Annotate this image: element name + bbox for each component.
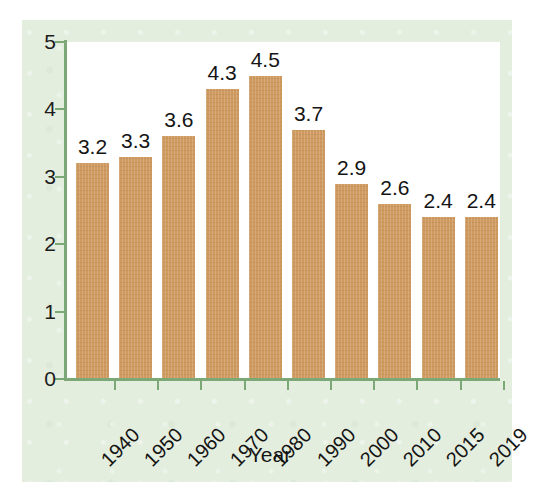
x-tick-1970 <box>244 381 246 390</box>
bar-1940 <box>76 163 109 379</box>
bar-1980 <box>249 76 282 379</box>
bar-1960 <box>162 136 195 379</box>
y-tick-label-3: 3 <box>30 165 56 189</box>
bar-value-label-1990: 3.7 <box>281 102 337 126</box>
x-tick-1990 <box>330 381 332 390</box>
y-tick-0 <box>55 378 65 380</box>
bar-2000 <box>335 184 368 379</box>
y-tick-5 <box>55 41 65 43</box>
y-tick-label-1: 1 <box>30 300 56 324</box>
bar-value-label-1980: 4.5 <box>237 48 293 72</box>
x-tick-1950 <box>157 381 159 390</box>
x-axis-line <box>64 378 500 381</box>
bar-1950 <box>119 157 152 379</box>
bar-value-label-2019: 2.4 <box>453 189 509 213</box>
x-tick-2000 <box>373 381 375 390</box>
y-tick-label-5: 5 <box>30 30 56 54</box>
y-tick-label-4: 4 <box>30 97 56 121</box>
x-tick-1960 <box>200 381 202 390</box>
bar-1990 <box>292 130 325 379</box>
y-tick-2 <box>55 243 65 245</box>
x-tick-2010 <box>416 381 418 390</box>
chart-figure: 012345 3.23.33.64.34.53.72.92.62.42.4 19… <box>0 0 540 494</box>
y-tick-1 <box>55 311 65 313</box>
x-tick-1940 <box>114 381 116 390</box>
y-tick-label-2: 2 <box>30 232 56 256</box>
bar-2019 <box>465 217 498 379</box>
x-tick-1980 <box>287 381 289 390</box>
bar-2015 <box>422 217 455 379</box>
x-tick-2015 <box>460 381 462 390</box>
bar-value-label-1960: 3.6 <box>151 108 207 132</box>
y-axis-line <box>64 40 67 381</box>
x-tick-2019 <box>503 381 505 390</box>
y-tick-4 <box>55 108 65 110</box>
x-axis-title: Year <box>0 443 540 467</box>
bar-1970 <box>206 89 239 379</box>
bar-2010 <box>378 204 411 379</box>
y-tick-3 <box>55 176 65 178</box>
y-tick-label-0: 0 <box>30 367 56 391</box>
